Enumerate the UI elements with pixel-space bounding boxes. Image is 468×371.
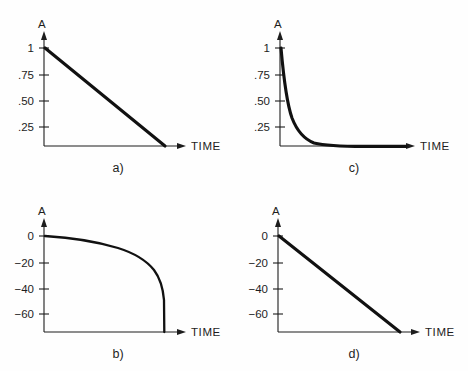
y-tick-label-4: .25 bbox=[254, 121, 270, 133]
x-axis-label: TIME bbox=[420, 140, 450, 152]
data-curve-linear bbox=[279, 236, 400, 332]
x-axis-label: TIME bbox=[425, 326, 455, 338]
x-axis-arrowhead bbox=[177, 329, 186, 335]
panel-d-plot: 0 −20 −40 −60 A TIME d) bbox=[234, 186, 468, 371]
data-curve-zero-order bbox=[45, 48, 165, 146]
data-curve-divergent bbox=[45, 236, 164, 332]
y-axis-arrowhead bbox=[41, 31, 47, 40]
y-axis-arrowhead bbox=[275, 218, 281, 227]
panel-c: 1 .75 .50 .25 A TIME c) bbox=[234, 0, 468, 186]
y-axis-label: A bbox=[38, 18, 46, 30]
x-axis-label: TIME bbox=[191, 326, 221, 338]
panel-b-plot: 0 −20 −40 −60 A TIME b) bbox=[0, 186, 234, 371]
y-tick-label-2: .75 bbox=[18, 69, 34, 81]
y-tick-label-4: −60 bbox=[14, 308, 34, 320]
y-tick-label-3: −40 bbox=[248, 283, 268, 295]
panel-c-plot: 1 .75 .50 .25 A TIME c) bbox=[234, 0, 468, 186]
data-curve-first-order bbox=[281, 48, 406, 146]
y-tick-label-2: .75 bbox=[254, 69, 270, 81]
x-axis-arrowhead bbox=[177, 143, 186, 149]
panel-caption: a) bbox=[112, 161, 123, 175]
x-axis-label: TIME bbox=[191, 140, 221, 152]
y-tick-label-2: −20 bbox=[248, 257, 268, 269]
panel-a-plot: 1 .75 .50 .25 A TIME a) bbox=[0, 0, 234, 186]
y-tick-label-3: .50 bbox=[18, 95, 34, 107]
y-tick-label-4: .25 bbox=[18, 121, 34, 133]
y-tick-label-3: −40 bbox=[14, 283, 34, 295]
panel-d: 0 −20 −40 −60 A TIME d) bbox=[234, 186, 468, 371]
panel-caption: c) bbox=[349, 161, 359, 175]
y-tick-label-2: −20 bbox=[14, 257, 34, 269]
y-tick-label-1: 1 bbox=[264, 42, 270, 54]
y-axis-label: A bbox=[274, 18, 282, 30]
panel-a: 1 .75 .50 .25 A TIME a) bbox=[0, 0, 234, 186]
y-tick-label-3: .50 bbox=[254, 95, 270, 107]
y-axis-label: A bbox=[38, 205, 46, 217]
y-axis-arrowhead bbox=[277, 31, 283, 40]
y-tick-label-1: 0 bbox=[262, 230, 268, 242]
x-axis-arrowhead bbox=[411, 329, 420, 335]
y-axis-arrowhead bbox=[41, 218, 47, 227]
y-axis-label: A bbox=[272, 205, 280, 217]
scan-bleed-through-artifact bbox=[0, 353, 468, 371]
four-panel-kinetics-figure: 1 .75 .50 .25 A TIME a) 1 .75 .50 .2 bbox=[0, 0, 468, 371]
panel-b: 0 −20 −40 −60 A TIME b) bbox=[0, 186, 234, 371]
y-tick-label-1: 0 bbox=[28, 230, 34, 242]
y-tick-label-4: −60 bbox=[248, 308, 268, 320]
y-tick-label-1: 1 bbox=[28, 42, 34, 54]
